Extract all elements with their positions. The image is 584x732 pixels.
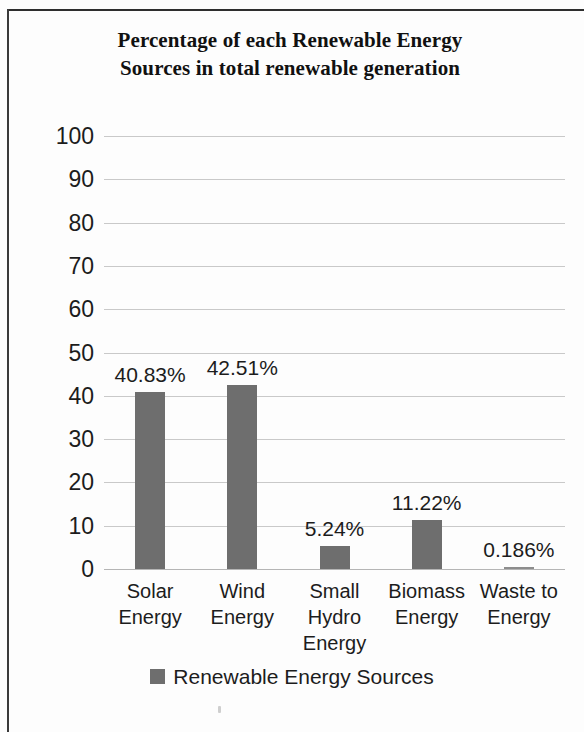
x-axis-tick-label: WindEnergy [196, 578, 288, 630]
x-axis-tick-label-line: Biomass [381, 578, 473, 604]
x-axis-tick-label-line: Small [288, 578, 380, 604]
bar-value-label: 0.186% [449, 539, 584, 560]
bar-value-label: 5.24% [265, 518, 405, 539]
y-axis-tick-label: 60 [34, 298, 94, 321]
x-axis-tick-label-line: Solar [104, 578, 196, 604]
x-axis-tick-label: SolarEnergy [104, 578, 196, 630]
y-axis-tick-label: 40 [34, 385, 94, 408]
chart-page: Percentage of each Renewable Energy Sour… [0, 0, 584, 732]
y-axis: 1009080706050403020100 [28, 136, 94, 569]
x-axis-tick-label: BiomassEnergy [381, 578, 473, 630]
x-axis-tick-label: SmallHydroEnergy [288, 578, 380, 656]
chart-legend: Renewable Energy Sources [0, 666, 584, 687]
gridline [104, 396, 565, 397]
bar-value-label: 42.51% [172, 357, 312, 378]
gridline [104, 569, 565, 570]
y-axis-tick-label: 90 [34, 168, 94, 191]
y-axis-tick-label: 0 [34, 558, 94, 581]
x-axis-tick-label-line: Hydro [288, 604, 380, 630]
gridline [104, 439, 565, 440]
bar[interactable] [227, 385, 257, 569]
x-axis-tick-label-line: Energy [473, 604, 565, 630]
y-axis-tick-label: 100 [34, 125, 94, 148]
bar[interactable] [412, 520, 442, 569]
x-axis: SolarEnergyWindEnergySmallHydroEnergyBio… [104, 578, 565, 658]
legend-label: Renewable Energy Sources [173, 666, 433, 687]
gridline [104, 353, 565, 354]
bar[interactable] [504, 567, 534, 569]
y-axis-tick-label: 30 [34, 428, 94, 451]
gridline [104, 309, 565, 310]
page-border-left [7, 9, 9, 732]
gridline [104, 179, 565, 180]
chart-title-line-2: Sources in total renewable generation [30, 54, 550, 82]
x-axis-tick-label: Waste toEnergy [473, 578, 565, 630]
x-axis-tick-label-line: Energy [104, 604, 196, 630]
x-axis-tick-label-line: Energy [196, 604, 288, 630]
gridline [104, 223, 565, 224]
x-axis-tick-label-line: Energy [288, 630, 380, 656]
scan-artifact [218, 706, 221, 713]
page-border-top [7, 9, 584, 11]
bar[interactable] [135, 392, 165, 569]
chart-title: Percentage of each Renewable Energy Sour… [30, 26, 550, 82]
gridline [104, 136, 565, 137]
y-axis-tick-label: 50 [34, 342, 94, 365]
bar[interactable] [320, 546, 350, 569]
y-axis-tick-label: 80 [34, 212, 94, 235]
y-axis-tick-label: 10 [34, 515, 94, 538]
gridline [104, 482, 565, 483]
gridline [104, 266, 565, 267]
plot-area: 40.83%42.51%5.24%11.22%0.186% [104, 136, 565, 569]
y-axis-tick-label: 20 [34, 471, 94, 494]
y-axis-tick-label: 70 [34, 255, 94, 278]
bar-value-label: 11.22% [357, 492, 497, 513]
x-axis-tick-label-line: Waste to [473, 578, 565, 604]
x-axis-tick-label-line: Wind [196, 578, 288, 604]
x-axis-tick-label-line: Energy [381, 604, 473, 630]
legend-color-swatch [150, 669, 165, 684]
chart-title-line-1: Percentage of each Renewable Energy [30, 26, 550, 54]
